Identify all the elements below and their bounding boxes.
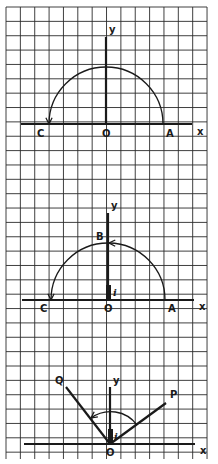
label-q: Q [55,375,64,386]
label-y: y [113,375,120,386]
label-b: B [96,231,104,242]
label-c: C [40,303,47,314]
label-origin: O [104,303,113,314]
label-y: y [109,24,116,35]
vector-oq [66,387,110,444]
label-y: y [111,200,118,211]
label-origin: O [102,128,111,139]
panel-bottom: Q y P i O x [24,375,207,458]
label-p: P [170,389,177,400]
label-a: A [166,128,174,139]
label-origin: O [106,447,115,458]
label-i: i [113,287,117,298]
label-x: x [200,445,207,456]
label-a: A [168,303,176,314]
unit-segment-i [106,285,111,300]
label-i: i [114,431,118,442]
label-c: C [37,128,44,139]
complex-rotation-diagram: y C O A x y B i C O A x Q y P i O x [0,0,218,464]
label-x: x [199,301,206,312]
label-x: x [197,126,204,137]
